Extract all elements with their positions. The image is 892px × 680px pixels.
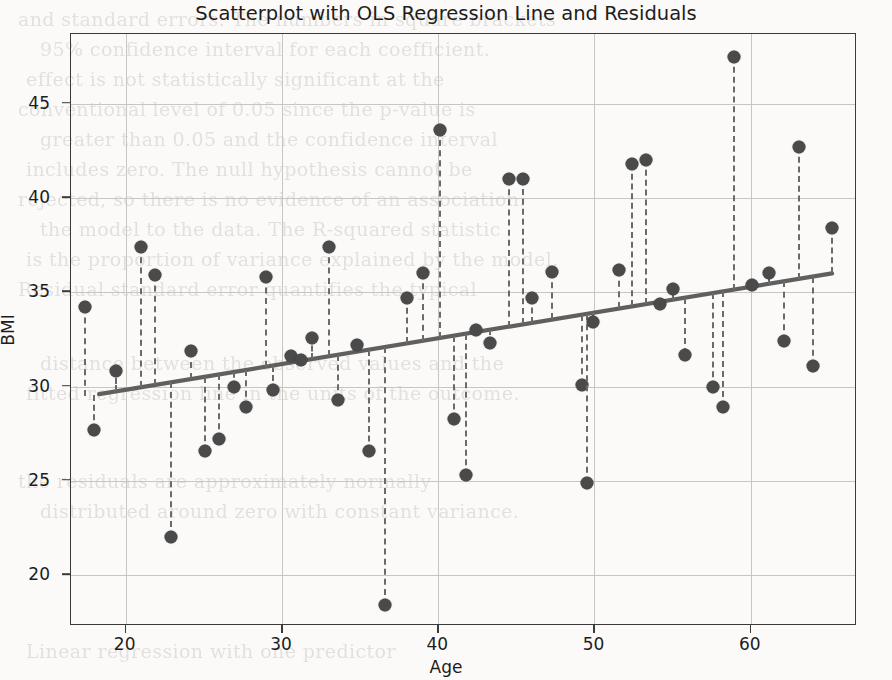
residual-line [465,334,467,476]
residual-line [204,377,206,451]
residual-line [422,273,424,340]
data-point [625,158,638,171]
x-tick-label: 60 [720,634,780,654]
residual-line [522,179,524,324]
y-tick-mark [62,290,70,292]
residual-line [439,130,441,338]
residual-line [368,350,370,451]
chart-title: Scatterplot with OLS Regression Line and… [0,2,892,25]
y-tick-label: 45 [0,93,50,113]
residual-line [631,164,633,306]
x-tick-mark [437,625,439,633]
residual-line [154,275,156,385]
data-point [546,265,559,278]
residual-line [406,298,408,343]
data-point [727,50,740,63]
data-point [707,380,720,393]
data-point [640,154,653,167]
residual-line [831,228,833,273]
residual-line [798,147,800,279]
y-tick-label: 30 [0,376,50,396]
data-point [580,476,593,489]
data-point [322,241,335,254]
data-point [165,531,178,544]
data-point [185,344,198,357]
y-tick-label: 40 [0,187,50,207]
residual-line [733,57,735,290]
scatterplot-figure: Scatterplot with OLS Regression Line and… [0,0,892,680]
data-point [763,267,776,280]
data-point [825,222,838,235]
data-point [679,348,692,361]
x-tick-label: 30 [251,634,311,654]
data-point [332,393,345,406]
residual-line [812,277,814,366]
x-tick-label: 50 [563,634,623,654]
data-point [502,173,515,186]
data-point [746,278,759,291]
data-point [79,301,92,314]
residual-line [712,293,714,387]
y-tick-mark [62,385,70,387]
data-point [716,401,729,414]
data-point [613,263,626,276]
residual-line [384,347,386,605]
data-point [135,241,148,254]
y-tick-mark [62,573,70,575]
data-points-layer [71,34,855,624]
data-point [483,337,496,350]
x-tick-mark [125,625,127,633]
data-point [266,384,279,397]
data-point [260,271,273,284]
y-tick-mark [62,102,70,104]
data-point [240,401,253,414]
data-point [363,444,376,457]
data-point [294,354,307,367]
residual-line [453,336,455,419]
residual-line [581,315,583,385]
data-point [807,359,820,372]
residual-line [684,298,686,355]
data-point [305,331,318,344]
residual-line [586,314,588,483]
residual-line [551,272,553,320]
data-point [350,339,363,352]
residual-line [170,382,172,537]
x-tick-label: 20 [95,634,155,654]
data-point [777,335,790,348]
data-point [416,267,429,280]
data-point [666,282,679,295]
residual-line [645,160,647,304]
data-point [447,412,460,425]
x-tick-mark [281,625,283,633]
residual-line [218,374,220,439]
data-point [400,291,413,304]
residual-line [508,179,510,327]
data-point [213,433,226,446]
data-point [516,173,529,186]
x-tick-mark [750,625,752,633]
residual-line [84,307,86,396]
data-point [525,291,538,304]
y-axis-label: BMI [0,314,18,345]
data-point [199,444,212,457]
plot-area [70,33,856,625]
residual-line [783,281,785,341]
data-point [460,469,473,482]
y-tick-label: 35 [0,281,50,301]
x-tick-label: 40 [407,634,467,654]
data-point [433,124,446,137]
data-point [379,599,392,612]
y-tick-label: 20 [0,564,50,584]
data-point [149,269,162,282]
y-tick-mark [62,479,70,481]
residual-line [265,277,267,366]
residual-line [722,291,724,407]
data-point [469,324,482,337]
data-point [793,141,806,154]
x-tick-mark [593,625,595,633]
y-tick-mark [62,196,70,198]
residual-line [140,247,142,387]
data-point [654,297,667,310]
data-point [586,316,599,329]
